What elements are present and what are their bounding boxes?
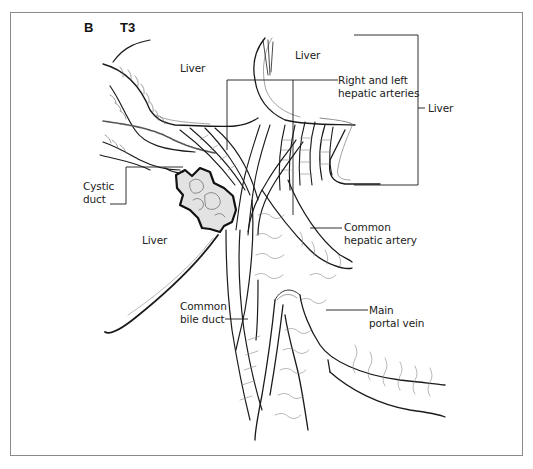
label-cystic-duct: Cystic duct [83, 180, 114, 206]
label-common-bile-duct: Common bile duct [180, 300, 227, 326]
label-main-portal-vein: Main portal vein [369, 304, 424, 330]
liver-hatching [105, 67, 165, 153]
stage-label: T3 [120, 20, 135, 35]
label-common-hepatic-artery: Common hepatic artery [344, 221, 417, 247]
liver-left-lobe-outline [100, 40, 258, 170]
anatomy-illustration [0, 0, 533, 469]
label-liver-top-left: Liver [180, 62, 205, 75]
hepatic-artery-wavy-marks [255, 213, 341, 303]
label-liver-bracket: Liver [428, 102, 453, 115]
common-hepatic-artery-outline [236, 180, 352, 350]
panel-letter: B [84, 20, 93, 35]
label-liver-top-right: Liver [295, 49, 320, 62]
liver-bracket [354, 35, 418, 185]
tumor-mass [176, 168, 236, 232]
portal-vein-wavy-marks [240, 328, 432, 418]
label-liver-left-lower: Liver [142, 234, 167, 247]
label-right-left-hepatic-arteries: Right and left hepatic arteries [338, 74, 419, 100]
